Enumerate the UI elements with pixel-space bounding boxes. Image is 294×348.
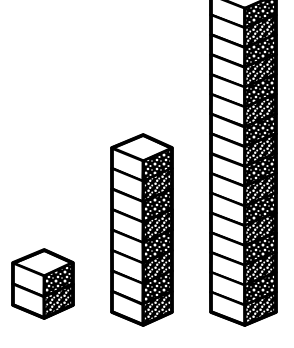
tower-tall <box>211 0 277 325</box>
figure-canvas <box>0 0 294 348</box>
tower-small <box>13 250 74 318</box>
towers-illustration <box>0 0 294 348</box>
tower-medium <box>112 135 173 325</box>
